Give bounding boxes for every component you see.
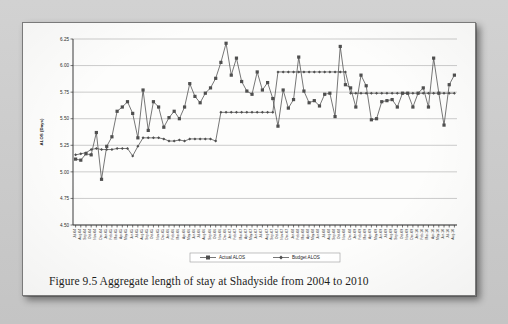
legend-marker	[206, 256, 210, 260]
data-point-marker	[188, 82, 191, 85]
x-axis-tick-label: Dec-06	[223, 229, 227, 240]
x-axis-tick-label: Jul-08	[322, 229, 326, 238]
data-point-marker	[121, 105, 124, 108]
x-axis-tick-label: May-10	[436, 229, 440, 240]
data-point-marker	[391, 98, 394, 101]
x-axis-tick-label: Mar-06	[176, 229, 180, 240]
data-point-marker	[282, 70, 285, 73]
data-point-marker	[110, 148, 113, 151]
data-point-marker	[432, 57, 435, 60]
data-point-marker	[168, 140, 171, 143]
data-point-marker	[375, 117, 378, 120]
y-axis-tick-label: 5.50	[60, 116, 69, 121]
data-point-marker	[116, 110, 119, 113]
x-axis-tick-label: Apr-05	[119, 229, 123, 239]
x-axis-tick-label: Jul-04	[73, 229, 77, 238]
data-point-marker	[214, 77, 217, 80]
x-axis-tick-label: Jul-10	[446, 229, 450, 238]
data-point-marker	[323, 70, 326, 73]
data-point-marker	[157, 105, 160, 108]
x-axis-tick-label: Nov-05	[156, 229, 160, 240]
data-point-marker	[204, 92, 207, 95]
data-point-marker	[427, 105, 430, 108]
x-axis-tick-label: Jun-06	[192, 229, 196, 239]
x-axis-tick-label: Sep-09	[394, 229, 398, 240]
data-point-marker	[344, 70, 347, 73]
x-axis-tick-label: Sep-07	[270, 229, 274, 240]
data-point-marker	[328, 70, 331, 73]
x-axis-tick-label: Jan-08	[291, 229, 295, 239]
x-axis-tick-label: Jan-10	[415, 229, 419, 239]
data-point-marker	[199, 101, 202, 104]
data-point-marker	[209, 86, 212, 89]
data-point-marker	[287, 106, 290, 109]
data-point-marker	[147, 136, 150, 139]
x-axis-tick-label: Nov-09	[405, 229, 409, 240]
screenshot-root: 4.504.755.005.255.505.756.006.25ALOS (Da…	[0, 0, 508, 324]
x-axis-tick-label: May-07	[249, 229, 253, 240]
x-axis-tick-label: Feb-07	[233, 229, 237, 240]
data-point-marker	[323, 93, 326, 96]
data-point-marker	[251, 111, 254, 114]
x-axis-tick-label: Sep-06	[208, 229, 212, 240]
x-axis-tick-label: Nov-04	[93, 229, 97, 240]
data-point-marker	[282, 88, 285, 91]
x-axis-tick-label: Nov-06	[218, 229, 222, 240]
data-point-marker	[219, 111, 222, 114]
data-point-marker	[188, 137, 191, 140]
figure-caption: Figure 9.5 Aggregate length of stay at S…	[49, 275, 449, 287]
x-axis-tick-label: Aug-10	[451, 229, 455, 240]
data-point-marker	[193, 95, 196, 98]
data-point-marker	[297, 70, 300, 73]
x-axis-tick-label: Jun-08	[316, 229, 320, 239]
data-point-marker	[147, 129, 150, 132]
x-axis-tick-label: Apr-09	[368, 229, 372, 239]
x-axis-tick-label: Jul-07	[259, 229, 263, 238]
chart-figure: 4.504.755.005.255.505.756.006.25ALOS (Da…	[33, 29, 465, 271]
data-point-marker	[276, 70, 279, 73]
x-axis-tick-label: Oct-05	[150, 229, 154, 239]
x-axis-tick-label: Jul-06	[197, 229, 201, 238]
x-axis-tick-label: Feb-06	[171, 229, 175, 240]
x-axis-tick-label: Sep-05	[145, 229, 149, 240]
x-axis-tick-label: Apr-10	[431, 229, 435, 239]
data-point-marker	[245, 89, 248, 92]
data-point-marker	[116, 147, 119, 150]
series-line	[76, 43, 455, 179]
x-axis-tick-label: Mar-10	[425, 229, 429, 240]
data-point-marker	[178, 138, 181, 141]
x-axis-tick-label: May-06	[187, 229, 191, 240]
legend-label: Budget ALOS	[292, 255, 320, 260]
data-point-marker	[235, 111, 238, 114]
data-point-marker	[105, 145, 108, 148]
data-point-marker	[297, 55, 300, 58]
x-axis-tick-label: Aug-04	[78, 229, 82, 240]
data-point-marker	[126, 100, 129, 103]
x-axis-tick-label: Aug-08	[327, 229, 331, 240]
x-axis-tick-label: Nov-07	[280, 229, 284, 240]
x-axis-tick-label: Sep-04	[83, 229, 87, 240]
data-point-marker	[178, 117, 181, 120]
x-axis-tick-label: Mar-05	[114, 229, 118, 240]
x-axis-tick-label: Feb-10	[420, 229, 424, 240]
y-axis-tick-label: 6.00	[60, 63, 69, 68]
data-point-marker	[214, 140, 217, 143]
data-point-marker	[448, 83, 451, 86]
data-point-marker	[354, 105, 357, 108]
x-axis-tick-label: Apr-08	[306, 229, 310, 239]
x-axis-tick-label: Aug-06	[202, 229, 206, 240]
data-point-marker	[105, 148, 108, 151]
x-axis-tick-label: Jun-05	[130, 229, 134, 239]
x-axis-tick-label: Dec-09	[410, 229, 414, 240]
data-point-marker	[183, 140, 186, 143]
data-point-marker	[183, 105, 186, 108]
data-point-marker	[110, 135, 113, 138]
data-point-marker	[334, 70, 337, 73]
data-point-marker	[90, 153, 93, 156]
data-point-marker	[209, 137, 212, 140]
data-point-marker	[79, 152, 82, 155]
data-point-marker	[95, 131, 98, 134]
data-point-marker	[261, 111, 264, 114]
data-point-marker	[339, 45, 342, 48]
data-point-marker	[422, 86, 425, 89]
